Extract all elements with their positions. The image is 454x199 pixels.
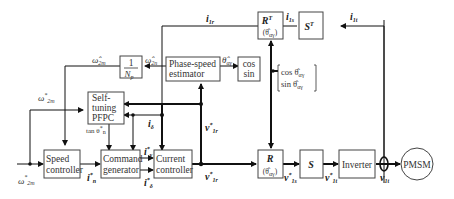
cos-label: cos bbox=[243, 59, 256, 69]
svg-text:ω̂2n: ω̂2n bbox=[145, 55, 157, 66]
svg-text:v*1s: v*1s bbox=[284, 172, 297, 184]
s-label: S bbox=[308, 159, 314, 170]
current-controller-label-1: Current bbox=[156, 154, 185, 164]
r-label: R bbox=[266, 153, 274, 164]
phase-speed-label-2: estimator bbox=[169, 69, 205, 79]
pfpc-label-1: Self- bbox=[92, 93, 110, 103]
svg-text:tan θ*n: tan θ*n bbox=[86, 125, 106, 135]
svg-text:ω*2m: ω*2m bbox=[38, 92, 55, 104]
current-controller-label-2: controller bbox=[156, 165, 194, 175]
svg-text:i1r: i1r bbox=[206, 13, 215, 25]
pfpc-label-3: PFPC bbox=[92, 113, 114, 123]
svg-text:sin θ̂αγ: sin θ̂αγ bbox=[281, 79, 303, 90]
pmsm-label: PMSM bbox=[403, 160, 431, 170]
svg-text:i1s: i1s bbox=[286, 11, 295, 23]
svg-text:cos θ̂αγ: cos θ̂αγ bbox=[281, 67, 305, 78]
command-generator-label-1: Command bbox=[103, 154, 143, 164]
svg-text:i*δ: i*δ bbox=[144, 177, 153, 189]
inv-np-numerator: 1 bbox=[129, 58, 134, 68]
svg-text:i1t: i1t bbox=[350, 11, 358, 23]
svg-text:v*1t: v*1t bbox=[325, 172, 337, 184]
command-generator-label-2: generator bbox=[103, 165, 140, 175]
svg-text:v*1r: v*1r bbox=[205, 171, 218, 183]
svg-text:v*1r: v*1r bbox=[205, 122, 218, 134]
inverter-label: Inverter bbox=[342, 160, 373, 170]
svg-text:iδ: iδ bbox=[148, 118, 154, 130]
svg-text:ω̂2m: ω̂2m bbox=[92, 55, 106, 66]
pfpc-label-2: tuning bbox=[92, 103, 117, 113]
phase-speed-label-1: Phase-speed bbox=[169, 59, 216, 69]
svg-text:i*n: i*n bbox=[87, 172, 97, 184]
svg-text:v1t: v1t bbox=[380, 172, 389, 184]
signal-tan-theta: tan θ bbox=[86, 127, 100, 135]
speed-controller-label-1: Speed bbox=[46, 154, 69, 164]
svg-text:ω*2m: ω*2m bbox=[18, 174, 35, 186]
sin-label: sin bbox=[243, 69, 254, 79]
svg-text:θ̂αγ: θ̂αγ bbox=[222, 55, 233, 66]
speed-controller-label-2: controller bbox=[46, 165, 84, 175]
pmsm-control-block-diagram: 1 Np Phase-speed estimator cos sin RT (θ… bbox=[0, 0, 454, 199]
svg-text:i*γ: i*γ bbox=[144, 146, 153, 158]
